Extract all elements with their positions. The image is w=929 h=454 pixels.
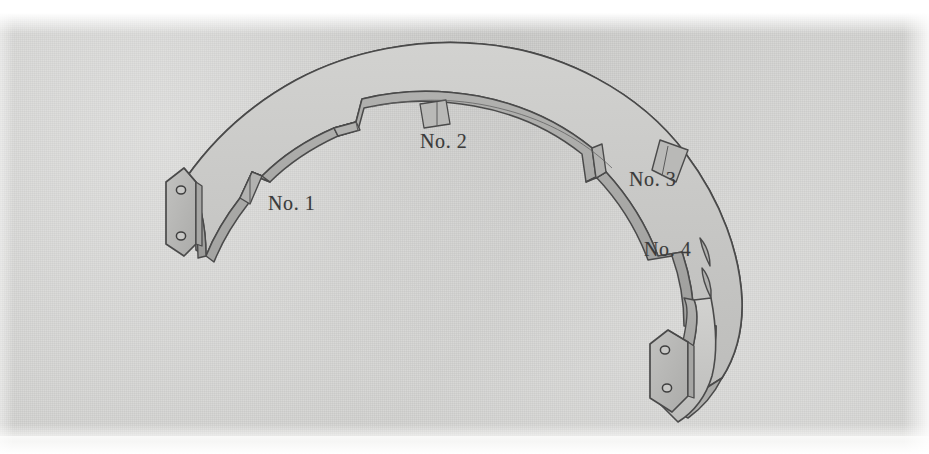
label-no-2: No. 2 bbox=[420, 130, 467, 153]
curved-band-drawing bbox=[0, 0, 929, 454]
left-bracket-hole-lower bbox=[176, 232, 185, 240]
right-mounting-bracket-plate bbox=[650, 330, 688, 412]
right-bracket-hole-upper bbox=[660, 346, 669, 354]
label-no-1: No. 1 bbox=[268, 192, 315, 215]
label-no-4: No. 4 bbox=[644, 238, 691, 261]
left-mounting-bracket-plate bbox=[166, 168, 196, 256]
right-bracket-hole-lower bbox=[662, 384, 671, 392]
left-bracket-hole-upper bbox=[176, 186, 185, 194]
label-no-3: No. 3 bbox=[629, 168, 676, 191]
notch-no-2-step-block bbox=[420, 100, 450, 128]
figure-page: No. 1 No. 2 No. 3 No. 4 bbox=[0, 0, 929, 454]
left-mounting-bracket-edge bbox=[196, 182, 202, 246]
right-mounting-bracket-edge bbox=[688, 342, 694, 398]
